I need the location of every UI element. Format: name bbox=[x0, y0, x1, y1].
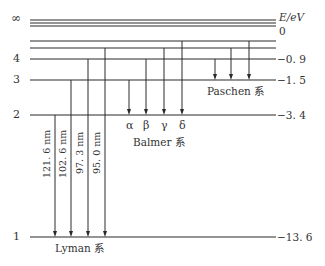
arrowhead-icon bbox=[103, 231, 107, 237]
lyman-wavelength-2-1: 121. 6 nm bbox=[42, 130, 52, 178]
level-label-2: 2 bbox=[8, 109, 20, 120]
balmer-label-beta: β bbox=[143, 120, 149, 131]
energy-label-1: −13. 6 bbox=[277, 232, 313, 243]
balmer-series-label: Balmer 系 bbox=[133, 137, 185, 148]
energy-label-inf: 0 bbox=[279, 26, 286, 37]
arrowhead-icon bbox=[180, 109, 184, 115]
lyman-series-label: Lyman 系 bbox=[55, 243, 104, 254]
energy-label-4: −0. 9 bbox=[277, 54, 306, 65]
lyman-wavelength-5-1: 95. 0 nm bbox=[92, 132, 102, 174]
balmer-label-delta: δ bbox=[179, 120, 186, 131]
lyman-wavelength-4-1: 97. 3 nm bbox=[75, 132, 85, 174]
arrowhead-icon bbox=[213, 74, 217, 80]
level-label-3: 3 bbox=[8, 74, 20, 85]
lyman-wavelength-3-1: 102. 6 nm bbox=[58, 130, 68, 178]
arrowhead-icon bbox=[127, 109, 131, 115]
energy-label-3: −1. 5 bbox=[277, 75, 306, 86]
energy-levels bbox=[30, 20, 276, 237]
balmer-label-gamma: γ bbox=[161, 120, 168, 131]
level-label-1: 1 bbox=[8, 231, 20, 242]
level-label-inf: ∞ bbox=[9, 13, 21, 24]
arrowhead-icon bbox=[144, 109, 148, 115]
balmer-label-alpha: α bbox=[126, 120, 133, 131]
arrowhead-icon bbox=[247, 74, 251, 80]
arrowhead-icon bbox=[69, 231, 73, 237]
arrowhead-icon bbox=[229, 74, 233, 80]
paschen-series-label: Paschen 系 bbox=[207, 86, 264, 97]
energy-label-2: −3. 4 bbox=[277, 110, 306, 121]
arrowhead-icon bbox=[53, 231, 57, 237]
level-label-4: 4 bbox=[8, 53, 20, 64]
arrowhead-icon bbox=[162, 109, 166, 115]
axis-label: E/eV bbox=[279, 12, 304, 23]
arrowhead-icon bbox=[86, 231, 90, 237]
